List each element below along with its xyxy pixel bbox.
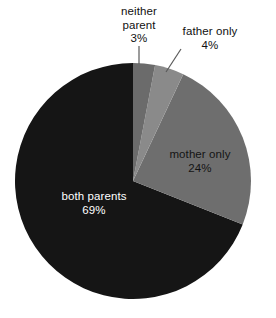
pie-label-father-only-line1: father only — [162, 25, 258, 39]
pie-label-neither-parent-line1: neither — [96, 5, 182, 19]
pie-label-both-parents: both parents 69% — [39, 190, 149, 217]
pie-label-mother-only: mother only 24% — [152, 148, 248, 175]
pie-label-mother-only-value: 24% — [152, 162, 248, 176]
pie-label-mother-only-line1: mother only — [152, 148, 248, 162]
pie-label-both-parents-line1: both parents — [39, 190, 149, 204]
pie-label-father-only-value: 4% — [162, 39, 258, 53]
leader-line-father-only — [166, 49, 181, 72]
pie-chart: neither parent 3% father only 4% mother … — [0, 0, 276, 318]
pie-label-father-only: father only 4% — [162, 25, 258, 52]
pie-label-both-parents-value: 69% — [39, 204, 149, 218]
